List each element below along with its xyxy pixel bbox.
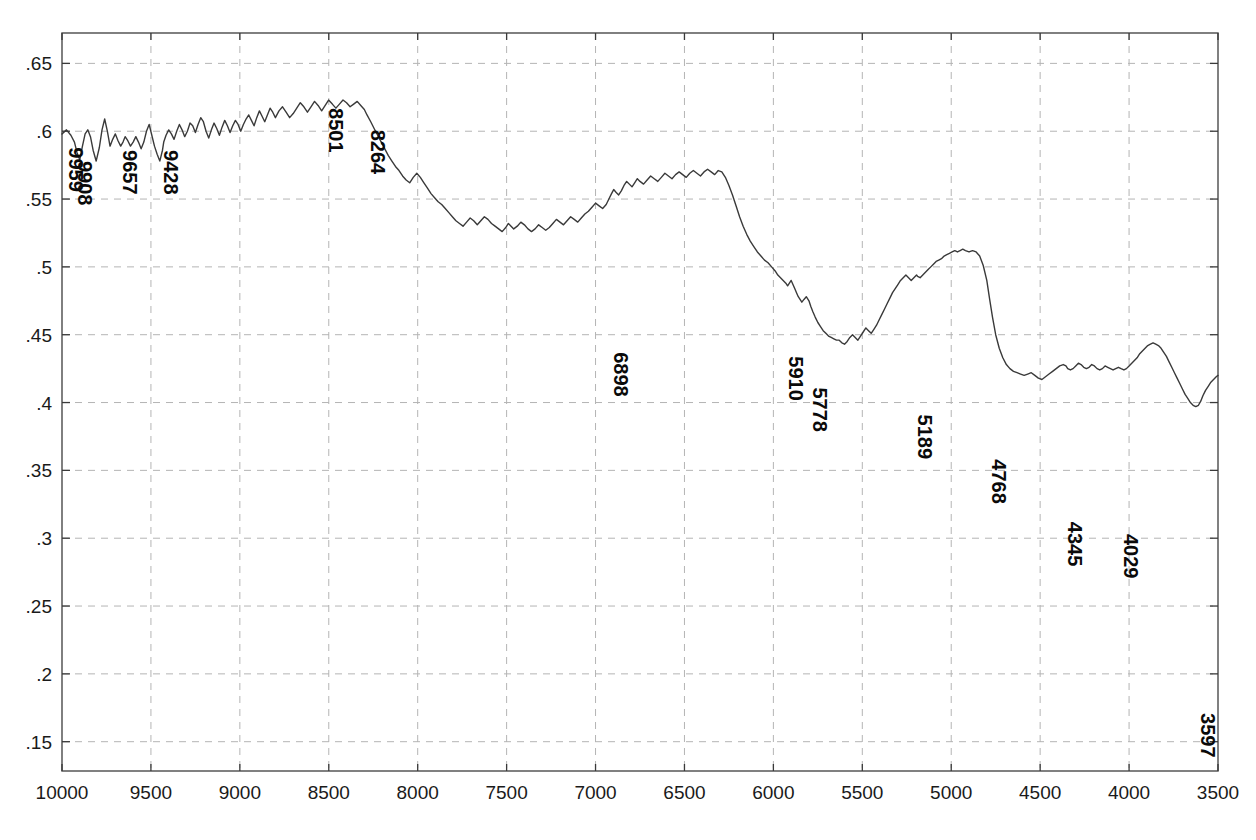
y-axis-tick-label: .6 <box>36 121 52 142</box>
y-axis-tick-label: .15 <box>26 732 52 753</box>
y-axis-tick-label: .5 <box>36 257 52 278</box>
peak-label: 9657 <box>119 150 141 195</box>
peak-label: 4345 <box>1064 522 1086 567</box>
peak-label: 3597 <box>1197 713 1219 758</box>
peak-label: 6898 <box>610 352 632 397</box>
x-axis-tick-label: 10000 <box>36 782 89 803</box>
x-axis-tick-label: 7000 <box>574 782 616 803</box>
x-axis-tick-label: 8000 <box>397 782 439 803</box>
x-axis-tick-label: 5000 <box>930 782 972 803</box>
y-axis-tick-label: .2 <box>36 664 52 685</box>
peak-label: 8501 <box>325 108 347 152</box>
spectrum-chart-page: .65.6.55.5.45.4.35.3.25.2.15 10000950090… <box>0 0 1256 840</box>
peak-label: 5778 <box>809 387 831 432</box>
y-axis-tick-label: .65 <box>26 53 52 74</box>
peak-label: 9428 <box>160 150 182 195</box>
peak-label: 5189 <box>914 415 936 460</box>
x-axis-tick-label: 3500 <box>1197 782 1239 803</box>
y-axis-tick-label: .55 <box>26 189 52 210</box>
x-axis-tick-label: 9500 <box>130 782 172 803</box>
x-axis-tick-label: 8500 <box>308 782 350 803</box>
x-axis-tick-label: 4000 <box>1108 782 1150 803</box>
y-axis-tick-label: .4 <box>36 393 52 414</box>
y-axis-tick-label: .25 <box>26 596 52 617</box>
x-axis-tick-label: 9000 <box>219 782 261 803</box>
x-axis-tick-label: 7500 <box>485 782 527 803</box>
y-axis-tick-label: .35 <box>26 460 52 481</box>
x-axis-tick-label: 5500 <box>841 782 883 803</box>
x-axis-tick-label: 4500 <box>1019 782 1061 803</box>
y-axis-tick-label: .3 <box>36 528 52 549</box>
peak-label: 4768 <box>988 459 1010 504</box>
y-axis-tick-label: .45 <box>26 325 52 346</box>
x-axis-tick-label: 6500 <box>663 782 705 803</box>
peak-label: 9908 <box>74 161 96 206</box>
peak-label: 8264 <box>367 130 389 175</box>
x-axis-tick-label: 6000 <box>752 782 794 803</box>
peak-label: 4029 <box>1120 534 1142 579</box>
peak-label: 5910 <box>785 356 807 401</box>
spectrum-chart: .65.6.55.5.45.4.35.3.25.2.15 10000950090… <box>0 0 1256 840</box>
